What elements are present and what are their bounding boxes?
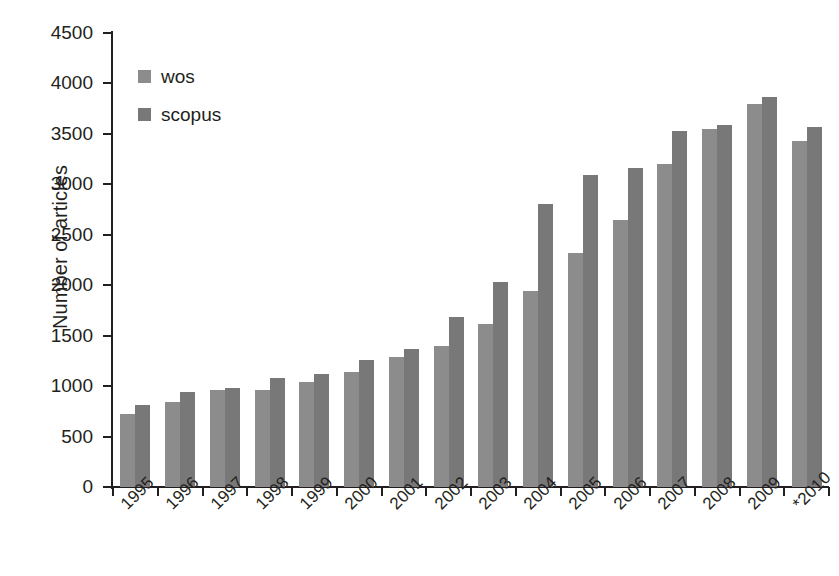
y-axis-tick-label: 4000 — [33, 72, 93, 94]
chart-legend: wosscopus — [138, 61, 268, 137]
legend-item-wos: wos — [138, 61, 268, 91]
bar-wos-2001 — [389, 357, 404, 487]
bar-wos-2005 — [568, 253, 583, 487]
y-axis-tick — [103, 183, 112, 185]
y-axis-tick — [103, 32, 112, 34]
y-axis-tick-label: 2000 — [33, 274, 93, 296]
bar-wos-1995 — [120, 414, 135, 487]
bar-group — [613, 33, 643, 487]
y-axis-tick-label: 3000 — [33, 173, 93, 195]
x-axis-tick — [694, 487, 696, 496]
bar-group — [657, 33, 687, 487]
y-axis-tick-label: 500 — [33, 426, 93, 448]
bar-scopus-2006 — [628, 168, 643, 487]
y-axis-tick-label: 0 — [33, 476, 93, 498]
bar-group — [747, 33, 777, 487]
bar-scopus-2010 — [807, 127, 822, 487]
bar-scopus-2007 — [672, 131, 687, 487]
legend-label-scopus: scopus — [161, 105, 221, 124]
bar-wos-2000 — [344, 372, 359, 487]
bar-scopus-2000 — [359, 360, 374, 487]
bar-chart: Number of articles 050010001500200025003… — [0, 0, 839, 576]
bar-wos-2008 — [702, 129, 717, 487]
y-axis-tick-label: 2500 — [33, 224, 93, 246]
y-axis-tick — [103, 133, 112, 135]
x-axis-tick — [336, 487, 338, 496]
bar-wos-2007 — [657, 164, 672, 487]
bar-scopus-2002 — [449, 317, 464, 488]
bar-group — [702, 33, 732, 487]
bar-scopus-2004 — [538, 204, 553, 487]
y-axis-tick — [103, 284, 112, 286]
legend-item-scopus: scopus — [138, 99, 268, 129]
bar-scopus-2008 — [717, 125, 732, 487]
y-axis-tick — [103, 234, 112, 236]
bar-scopus-1998 — [270, 378, 285, 487]
bar-scopus-1999 — [314, 374, 329, 488]
y-axis-tick-label: 1500 — [33, 325, 93, 347]
legend-swatch-scopus — [138, 108, 151, 121]
bar-group — [568, 33, 598, 487]
x-axis-tick — [515, 487, 517, 496]
bar-group — [478, 33, 508, 487]
bar-scopus-1997 — [225, 388, 240, 487]
y-axis-tick-label: 3500 — [33, 123, 93, 145]
bar-wos-1997 — [210, 390, 225, 487]
bar-group — [434, 33, 464, 487]
y-axis-tick — [103, 385, 112, 387]
bar-wos-1998 — [255, 390, 270, 487]
y-axis-tick — [103, 335, 112, 337]
bar-scopus-2009 — [762, 97, 777, 487]
y-axis-tick-label: 4500 — [33, 22, 93, 44]
bar-scopus-2005 — [583, 175, 598, 487]
x-axis-tick — [112, 487, 114, 496]
y-axis-tick-label: 1000 — [33, 375, 93, 397]
bar-wos-2010 — [792, 141, 807, 487]
bar-group — [389, 33, 419, 487]
y-axis-tick — [103, 436, 112, 438]
bar-wos-1999 — [299, 382, 314, 487]
bar-wos-1996 — [165, 402, 180, 487]
bar-wos-2006 — [613, 220, 628, 487]
legend-swatch-wos — [138, 70, 151, 83]
y-axis-tick — [103, 486, 112, 488]
bar-group — [792, 33, 822, 487]
bar-scopus-2003 — [493, 282, 508, 487]
bar-group — [523, 33, 553, 487]
bar-wos-2004 — [523, 291, 538, 487]
bar-wos-2009 — [747, 104, 762, 487]
x-axis-tick — [157, 487, 159, 496]
bar-scopus-2001 — [404, 349, 419, 487]
bar-group — [344, 33, 374, 487]
bar-wos-2002 — [434, 346, 449, 487]
bar-group — [299, 33, 329, 487]
y-axis-tick — [103, 82, 112, 84]
legend-label-wos: wos — [161, 67, 195, 86]
bar-wos-2003 — [478, 324, 493, 487]
